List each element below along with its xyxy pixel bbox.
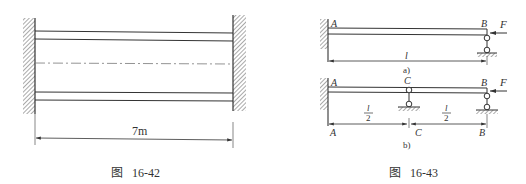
figure-caption-16-42: 图 16-42 bbox=[111, 166, 160, 180]
subfigure-a-label: a) bbox=[403, 65, 410, 75]
label-b-dim-B: B bbox=[479, 127, 485, 138]
label-a-point-B: B bbox=[481, 18, 487, 29]
hinge-C bbox=[406, 87, 412, 93]
figure-caption-16-43: 图 16-43 bbox=[389, 166, 438, 180]
label-b-half2-den: 2 bbox=[444, 113, 449, 123]
subfigure-a: A B F l a) bbox=[320, 18, 507, 75]
subfigure-b-label: b) bbox=[403, 140, 411, 150]
support-a-bottom-hinge bbox=[484, 47, 490, 53]
beam-top-flange-inner bbox=[35, 39, 233, 41]
dimension-label: 7m bbox=[132, 124, 148, 138]
wall-b-hatch bbox=[320, 78, 328, 110]
label-b-force-F: F bbox=[499, 76, 507, 88]
beam-top-flange-outer bbox=[35, 31, 233, 33]
ground-C-hatch bbox=[398, 107, 420, 111]
support-C-bottom-hinge bbox=[406, 101, 412, 107]
label-b-dim-A: A bbox=[329, 127, 337, 138]
label-b-half2-num: l bbox=[445, 103, 448, 113]
beam-a-top bbox=[328, 28, 487, 29]
label-b-half1-num: l bbox=[367, 103, 370, 113]
beam-a-bottom bbox=[328, 34, 487, 35]
figure-16-43: A B F l a) A C B bbox=[320, 18, 507, 180]
support-a-top-hinge bbox=[484, 35, 490, 41]
wall-a-hatch bbox=[320, 19, 328, 49]
beam-centerline bbox=[35, 63, 233, 64]
label-a-force-F: F bbox=[499, 18, 507, 30]
support-b-top-hinge bbox=[484, 93, 490, 99]
label-b-point-A: A bbox=[330, 77, 338, 88]
figure-16-42: 7m 图 16-42 bbox=[23, 15, 246, 180]
label-b-dim-C: C bbox=[415, 127, 422, 138]
right-wall-hatch bbox=[233, 15, 246, 111]
label-b-point-C: C bbox=[404, 75, 411, 86]
support-b-bottom-hinge bbox=[484, 104, 490, 110]
beam-bottom-flange-inner bbox=[35, 92, 233, 93]
beam-bottom-flange-outer bbox=[35, 100, 233, 101]
diagram-canvas: 7m 图 16-42 A B F l a) bbox=[0, 0, 526, 184]
subfigure-b: A C B F l 2 l bbox=[320, 75, 507, 150]
ground-b-hatch bbox=[476, 110, 498, 114]
label-b-point-B: B bbox=[481, 77, 487, 88]
left-wall-hatch bbox=[23, 18, 35, 114]
label-a-point-A: A bbox=[330, 18, 338, 29]
label-b-half1-den: 2 bbox=[366, 113, 371, 123]
dimension-line-7m bbox=[36, 138, 232, 140]
label-a-length: l bbox=[405, 50, 408, 61]
